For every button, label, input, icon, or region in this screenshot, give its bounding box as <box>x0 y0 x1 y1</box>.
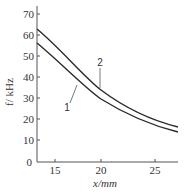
curve-2-label: 2 <box>97 57 103 68</box>
x-tick-20: 20 <box>96 164 108 176</box>
curve-2 <box>37 29 178 127</box>
chart-canvas: 70 60 50 40 30 20 10 0 15 20 25 x/mm f/ … <box>0 0 189 194</box>
y-tick-10: 10 <box>23 134 35 146</box>
x-tick-15: 15 <box>50 164 62 176</box>
curve-1-leader <box>70 85 77 103</box>
y-tick-20: 20 <box>23 113 35 125</box>
y-tick-labels: 70 60 50 40 30 20 10 0 <box>23 8 35 168</box>
curve-1 <box>37 43 178 132</box>
x-tick-labels: 15 20 25 <box>50 164 162 176</box>
y-tick-0: 0 <box>27 156 33 168</box>
y-tick-50: 50 <box>23 50 35 62</box>
x-tick-25: 25 <box>150 164 162 176</box>
y-tick-60: 60 <box>23 29 35 41</box>
y-tick-40: 40 <box>23 71 35 83</box>
curve-1-label: 1 <box>64 102 70 113</box>
y-tick-70: 70 <box>23 8 35 20</box>
y-tick-30: 30 <box>23 92 35 104</box>
y-axis-title: f/ kHz <box>3 78 15 106</box>
x-axis-title: x/mm <box>92 177 117 189</box>
